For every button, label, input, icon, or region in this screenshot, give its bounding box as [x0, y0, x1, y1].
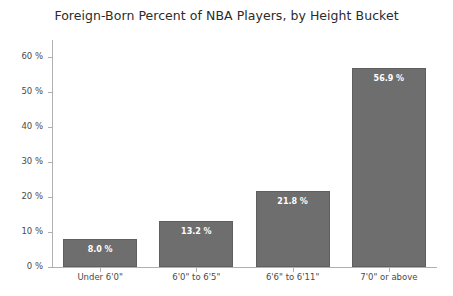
y-axis-tick-label: 0 % — [27, 261, 43, 271]
x-axis-tick-label: 7'0" or above — [341, 272, 437, 282]
y-axis-tick-label: 10 % — [21, 226, 43, 236]
bar[interactable]: 56.9 % — [352, 68, 426, 267]
bar[interactable]: 13.2 % — [159, 221, 233, 267]
x-axis-tick-label: 6'0" to 6'5" — [148, 272, 244, 282]
y-axis-tick-label: 60 % — [21, 51, 43, 61]
plot-area: 8.0 %13.2 %21.8 %56.9 % — [52, 40, 437, 267]
x-axis-tick-label: Under 6'0" — [52, 272, 148, 282]
y-axis-tick-label: 50 % — [21, 86, 43, 96]
y-axis-tick-label: 30 % — [21, 156, 43, 166]
chart-figure: Foreign-Born Percent of NBA Players, by … — [0, 0, 453, 296]
x-axis-tick-label: 6'6" to 6'11" — [245, 272, 341, 282]
bar-value-label: 13.2 % — [160, 227, 232, 236]
bar-value-label: 8.0 % — [64, 245, 136, 254]
bar[interactable]: 21.8 % — [256, 191, 330, 267]
x-axis-spine — [52, 267, 437, 268]
y-axis-tick-label: 20 % — [21, 191, 43, 201]
y-axis-tick-mark — [48, 267, 52, 268]
y-axis-tick-label: 40 % — [21, 121, 43, 131]
bar-value-label: 56.9 % — [353, 74, 425, 83]
bar[interactable]: 8.0 % — [63, 239, 137, 267]
chart-title: Foreign-Born Percent of NBA Players, by … — [0, 8, 453, 23]
bar-value-label: 21.8 % — [257, 197, 329, 206]
